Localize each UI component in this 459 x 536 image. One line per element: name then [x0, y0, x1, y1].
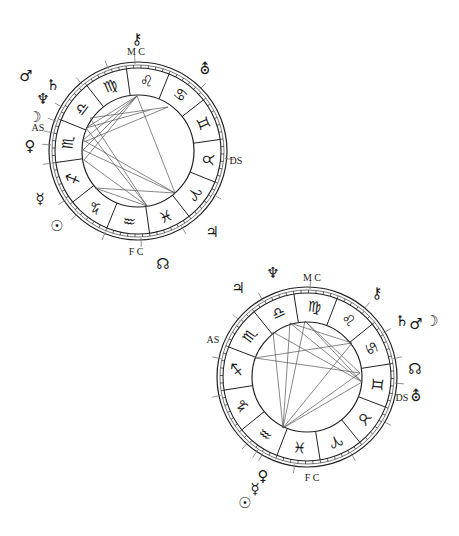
saturn-icon: ♄ [395, 312, 408, 330]
degree-tick [276, 455, 277, 458]
sign-capricorn-icon: ♑ [232, 396, 254, 416]
sign-divider [56, 159, 83, 163]
planet-marker-tick [242, 442, 248, 449]
degree-tick [380, 335, 383, 336]
sign-divider [73, 185, 94, 202]
sign-divider [190, 172, 215, 182]
degree-tick [75, 208, 77, 210]
sign-taurus-icon: ♉ [198, 152, 218, 168]
degree-tick [269, 452, 270, 455]
ic-label: F C [129, 246, 144, 257]
degree-tick [228, 411, 231, 412]
aspect-line [86, 110, 150, 128]
sign-divider [159, 74, 169, 99]
sign-divider [358, 397, 385, 407]
degree-tick [223, 353, 226, 354]
degree-tick [377, 328, 379, 330]
degree-tick [341, 454, 342, 457]
degree-tick [348, 450, 349, 453]
degree-tick [204, 201, 206, 203]
degree-tick [188, 82, 190, 84]
sign-scorpio-icon: ♏ [239, 324, 262, 346]
aspect-line [283, 373, 360, 428]
degree-tick [91, 79, 93, 82]
degree-tick [212, 189, 215, 190]
sign-taurus-icon: ♉ [353, 408, 375, 429]
degree-tick [215, 182, 218, 183]
degree-tick [157, 232, 158, 235]
degree-tick [183, 221, 185, 224]
degree-tick [189, 216, 191, 218]
degree-tick [79, 88, 81, 90]
degree-band-mid [220, 290, 394, 464]
degree-tick [74, 93, 76, 95]
degree-tick [237, 326, 239, 328]
sign-divider [294, 294, 299, 323]
degree-tick [162, 69, 163, 72]
aspect-line [84, 96, 137, 160]
aspect-line [83, 140, 175, 193]
degree-tick [250, 440, 252, 442]
degree-tick [244, 435, 246, 437]
degree-tick [367, 317, 369, 319]
planet-marker-tick [395, 383, 404, 384]
aspect-line [305, 321, 362, 382]
sign-aries-icon: ♈ [183, 183, 205, 205]
sign-divider [172, 195, 189, 216]
degree-tick [113, 230, 114, 233]
degree-tick [54, 170, 57, 171]
chiron-icon: ⚷ [372, 284, 383, 302]
degree-tick [199, 92, 201, 94]
degree-tick [211, 111, 214, 112]
sign-divider [182, 100, 203, 117]
sign-gemini-icon: ♊ [192, 114, 214, 133]
degree-tick [235, 424, 237, 426]
uranus-icon: ⛢ [411, 387, 422, 405]
planet-marker-tick [200, 83, 206, 89]
degree-tick [65, 105, 68, 107]
degree-tick [231, 418, 234, 419]
planet-marker-tick [233, 315, 240, 321]
degree-tick [217, 124, 220, 125]
degree-tick [344, 299, 345, 302]
sign-divider [224, 386, 253, 391]
planet-marker-tick [364, 303, 370, 310]
degree-tick [177, 224, 178, 227]
degree-tick [56, 177, 59, 178]
degree-tick [247, 314, 249, 316]
astrology-charts-canvas: ♌♍♎♏♐♑♒♓♈♉♊♋M CASDSF C⚷⛢♂♄♆☽♀☿☉♃☊ ♍♎♏♐♑♒… [0, 0, 459, 536]
degree-tick [370, 432, 372, 434]
sign-divider [61, 120, 86, 130]
degree-tick [92, 221, 94, 224]
sign-divider [350, 324, 373, 342]
moon-icon: ☽ [425, 312, 438, 330]
degree-tick [217, 175, 220, 176]
mars-icon: ♂ [19, 67, 32, 85]
jupiter-icon: ♃ [231, 279, 244, 297]
sign-divider [87, 86, 104, 107]
descendant-label: DS [396, 392, 409, 403]
aspect-line [290, 323, 362, 382]
sign-libra-icon: ♎ [269, 302, 289, 324]
degree-tick [226, 346, 229, 347]
degree-tick [241, 320, 243, 322]
degree-band-inner [55, 68, 221, 234]
ic-label: F C [305, 472, 320, 483]
sign-divider [126, 69, 130, 96]
planet-marker-tick [42, 144, 51, 145]
degree-tick [372, 322, 374, 324]
degree-tick [375, 426, 377, 428]
jupiter-icon: ♃ [205, 223, 218, 241]
natal-chart-2: ♍♎♏♐♑♒♓♈♉♊♋♌M CASDSF C♆♃⚷♄♂☽☊⛢♀☿☉ [207, 264, 439, 512]
degree-tick [239, 430, 241, 432]
degree-tick [86, 217, 88, 219]
sign-divider [316, 431, 321, 460]
degree-tick [219, 132, 222, 133]
degree-tick [56, 126, 59, 127]
degree-tick [229, 339, 232, 340]
degree-tick [256, 445, 258, 447]
sign-leo-icon: ♌ [338, 309, 359, 331]
degree-tick [99, 225, 100, 228]
inner-circle [252, 322, 362, 432]
degree-tick [111, 69, 112, 72]
